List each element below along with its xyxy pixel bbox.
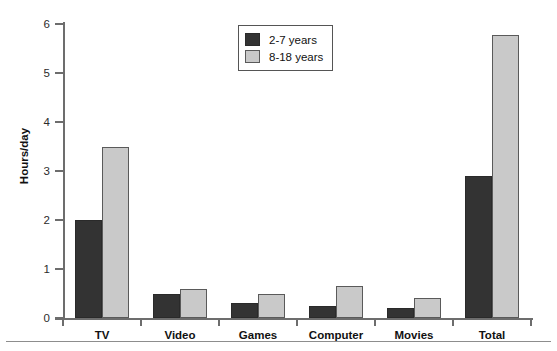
x-axis-tick-origin <box>62 318 64 326</box>
x-axis-tick <box>140 318 142 326</box>
x-axis-tick <box>374 318 376 326</box>
bar <box>336 286 363 318</box>
y-axis-tick <box>55 121 63 123</box>
y-axis-tick <box>55 170 63 172</box>
x-axis-tick <box>218 318 220 326</box>
bar <box>309 306 336 318</box>
x-axis-tick <box>296 318 298 326</box>
bar <box>231 303 258 318</box>
bar <box>75 220 102 318</box>
bar <box>153 294 180 319</box>
y-axis-tick-label: 2 <box>36 214 50 226</box>
y-axis-tick <box>55 23 63 25</box>
legend-label-series-0: 2-7 years <box>269 34 317 46</box>
y-axis-tick-label: 4 <box>36 116 50 128</box>
x-axis-tick <box>530 318 532 326</box>
x-axis-tick <box>452 318 454 326</box>
legend-swatch-series-0 <box>245 33 260 46</box>
x-axis-line <box>55 318 533 320</box>
y-axis-tick-label: 0 <box>36 312 50 324</box>
y-axis-tick <box>55 219 63 221</box>
y-axis-tick-label: 6 <box>36 18 50 30</box>
bar <box>387 308 414 318</box>
bar <box>465 176 492 318</box>
y-axis-tick <box>55 268 63 270</box>
x-axis-label-total: Total <box>437 329 547 341</box>
y-axis-tick-label: 5 <box>36 67 50 79</box>
y-axis-title: Hours/day <box>18 96 30 216</box>
bar-chart-figure: 0123456 Hours/day 2-7 years 8-18 years T… <box>0 0 557 351</box>
y-axis-tick <box>55 72 63 74</box>
bar <box>180 289 207 318</box>
y-axis-tick-label: 1 <box>36 263 50 275</box>
legend-item-1: 8-18 years <box>245 48 323 65</box>
legend-label-series-1: 8-18 years <box>269 51 323 63</box>
y-axis-tick-label: 3 <box>36 165 50 177</box>
legend-swatch-series-1 <box>245 50 260 63</box>
footer-divider <box>6 341 551 342</box>
legend-item-0: 2-7 years <box>245 31 323 48</box>
bar <box>492 35 519 318</box>
chart-legend: 2-7 years 8-18 years <box>238 25 333 71</box>
bar <box>102 147 129 319</box>
bar <box>414 298 441 318</box>
bar <box>258 294 285 319</box>
